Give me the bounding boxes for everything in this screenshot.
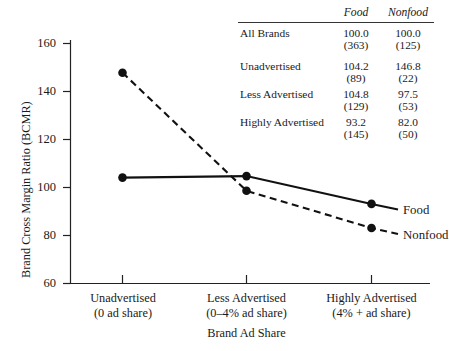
x-tick-label-highly-advertised-line1: Highly Advertised bbox=[309, 291, 434, 306]
x-tick-label-less-advertised-line1: Less Advertised bbox=[185, 291, 308, 306]
inset-row-label-less-advertised-n bbox=[238, 100, 330, 112]
inset-value-less-advertised-food: 104.8 bbox=[330, 84, 382, 100]
table-row: Less Advertised 104.8 97.5 bbox=[238, 84, 434, 100]
table-row-n: (145) (50) bbox=[238, 128, 434, 140]
inset-n-unadvertised-food: (89) bbox=[330, 72, 382, 84]
inset-row-label-highly-advertised-n bbox=[238, 128, 330, 140]
data-point-nonfood-1 bbox=[118, 68, 127, 77]
table-row-n: (89) (22) bbox=[238, 72, 434, 84]
y-tick-label-60: 60 bbox=[16, 277, 56, 290]
x-axis-title: Brand Ad Share bbox=[185, 327, 308, 339]
y-axis-title: Brand Cross Margin Ratio (BCMR) bbox=[20, 101, 32, 278]
inset-n-highly-advertised-food: (145) bbox=[330, 128, 382, 140]
legend-label-nonfood: Nonfood bbox=[403, 229, 449, 242]
x-tick-label-unadvertised-line1: Unadvertised bbox=[62, 291, 184, 306]
data-point-food-1 bbox=[118, 173, 127, 182]
x-tick-label-unadvertised-line2: (0 ad share) bbox=[62, 306, 184, 321]
data-point-food-3 bbox=[367, 200, 376, 209]
y-tick-label-160: 160 bbox=[16, 37, 56, 50]
inset-row-label-unadvertised: Unadvertised bbox=[238, 56, 330, 72]
data-point-food-2 bbox=[242, 172, 251, 181]
inset-value-highly-advertised-nonfood: 82.0 bbox=[382, 112, 434, 128]
inset-value-highly-advertised-food: 93.2 bbox=[330, 112, 382, 128]
y-tick-label-140: 140 bbox=[16, 85, 56, 98]
inset-row-label-highly-advertised: Highly Advertised bbox=[238, 112, 330, 128]
inset-n-all-brands-nonfood: (125) bbox=[382, 39, 434, 51]
inset-n-all-brands-food: (363) bbox=[330, 39, 382, 51]
y-tick-marks bbox=[63, 44, 71, 284]
inset-value-unadvertised-nonfood: 146.8 bbox=[382, 56, 434, 72]
x-tick-label-less-advertised-line2: (0–4% ad share) bbox=[185, 306, 308, 321]
inset-summary-table: Food Nonfood All Brands 100.0 100.0 (363… bbox=[238, 6, 434, 140]
inset-n-unadvertised-nonfood: (22) bbox=[382, 72, 434, 84]
inset-col-header-blank bbox=[238, 6, 330, 22]
legend-label-food: Food bbox=[403, 204, 429, 217]
x-tick-marks bbox=[123, 275, 372, 284]
inset-row-label-all-brands-n bbox=[238, 39, 330, 51]
table-row: Highly Advertised 93.2 82.0 bbox=[238, 112, 434, 128]
x-tick-label-highly-advertised-line2: (4% + ad share) bbox=[309, 306, 434, 321]
inset-n-less-advertised-food: (129) bbox=[330, 100, 382, 112]
data-point-nonfood-2 bbox=[242, 187, 251, 196]
inset-value-all-brands-food: 100.0 bbox=[330, 23, 382, 40]
inset-row-label-all-brands: All Brands bbox=[238, 23, 330, 40]
inset-value-all-brands-nonfood: 100.0 bbox=[382, 23, 434, 40]
data-point-nonfood-3 bbox=[367, 224, 376, 233]
inset-col-header-nonfood: Nonfood bbox=[382, 6, 434, 22]
table-row-n: (363) (125) bbox=[238, 39, 434, 51]
table-row: All Brands 100.0 100.0 bbox=[238, 23, 434, 40]
table-row: Unadvertised 104.2 146.8 bbox=[238, 56, 434, 72]
table-row-n: (129) (53) bbox=[238, 100, 434, 112]
inset-n-highly-advertised-nonfood: (50) bbox=[382, 128, 434, 140]
inset-n-less-advertised-nonfood: (53) bbox=[382, 100, 434, 112]
inset-value-less-advertised-nonfood: 97.5 bbox=[382, 84, 434, 100]
inset-col-header-food: Food bbox=[330, 6, 382, 22]
series-food bbox=[118, 172, 398, 210]
inset-row-label-unadvertised-n bbox=[238, 72, 330, 84]
inset-value-unadvertised-food: 104.2 bbox=[330, 56, 382, 72]
inset-row-label-less-advertised: Less Advertised bbox=[238, 84, 330, 100]
